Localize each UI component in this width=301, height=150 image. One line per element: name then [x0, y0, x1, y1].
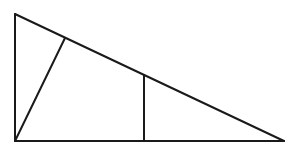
slant-segment	[15, 38, 65, 141]
triangle-diagram	[0, 0, 301, 150]
hypotenuse	[15, 14, 284, 141]
